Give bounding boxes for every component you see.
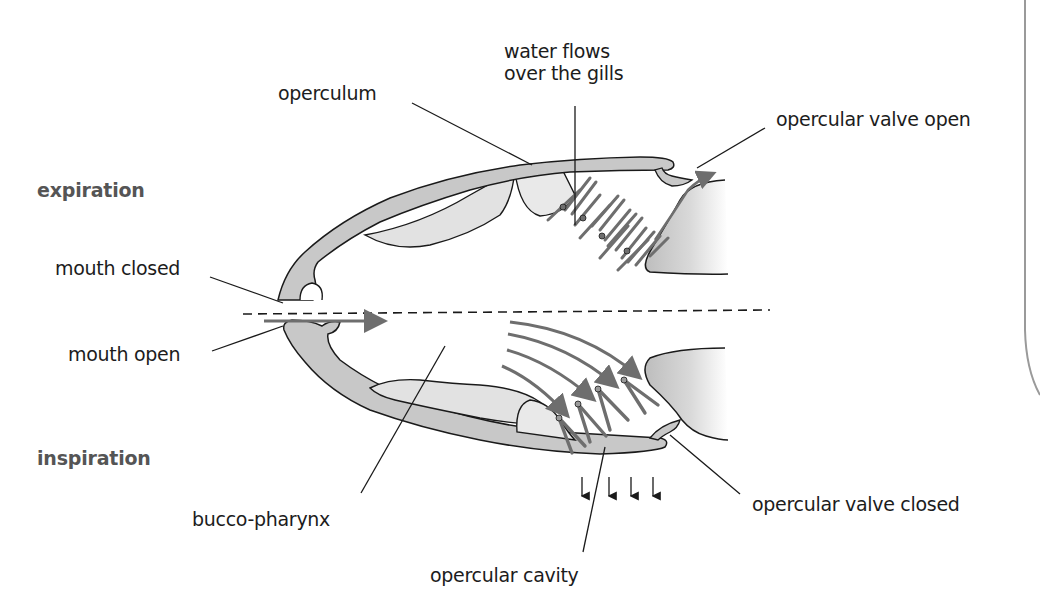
opercular-valve-closed	[650, 420, 680, 440]
label-operculum: operculum	[278, 82, 376, 104]
label-mouth-open: mouth open	[68, 343, 180, 365]
gill-ventilation-diagram: expiration inspiration operculum water f…	[0, 0, 1040, 602]
leader-mouth-open	[212, 326, 283, 351]
body-mass-lower	[645, 348, 728, 440]
expiration-head	[278, 157, 728, 300]
leader-operculum	[412, 103, 532, 165]
label-opercular-valve-open: opercular valve open	[776, 108, 971, 130]
label-opercular-valve-closed: opercular valve closed	[752, 493, 960, 515]
inspiration-head	[264, 320, 728, 496]
page-border	[1025, 0, 1040, 395]
label-water-flows: water flows over the gills	[504, 40, 623, 84]
phase-label-expiration: expiration	[37, 179, 145, 201]
midline-divider	[243, 310, 770, 314]
label-water-flows-line2: over the gills	[504, 62, 623, 84]
pressure-arrows	[582, 477, 653, 496]
leader-valve-open	[697, 128, 765, 168]
phase-label-inspiration: inspiration	[37, 447, 151, 469]
label-opercular-cavity: opercular cavity	[430, 564, 579, 586]
leader-mouth-closed	[210, 277, 283, 303]
leader-valve-closed	[670, 435, 740, 494]
opercular-valve-open	[655, 168, 692, 186]
label-bucco-pharynx: bucco-pharynx	[192, 508, 330, 530]
label-mouth-closed: mouth closed	[55, 257, 180, 279]
leader-opercular-cavity	[583, 447, 605, 552]
label-water-flows-line1: water flows	[504, 40, 623, 62]
